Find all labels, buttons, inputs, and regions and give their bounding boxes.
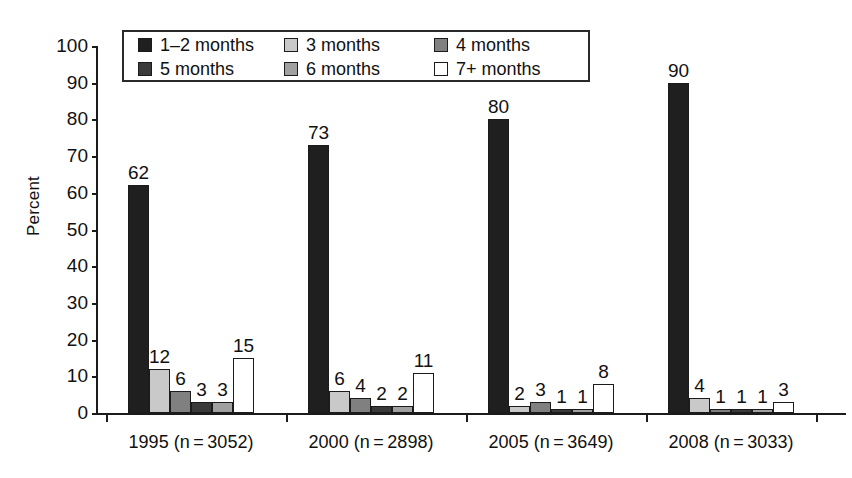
x-tick-mark bbox=[816, 413, 818, 422]
bar-value-label: 73 bbox=[299, 123, 339, 142]
y-tick-label: 10 bbox=[42, 366, 88, 385]
y-tick-label: 80 bbox=[42, 109, 88, 128]
x-tick-label: 1995 (n = 3052) bbox=[91, 432, 291, 453]
legend-item: 4 months bbox=[434, 33, 530, 57]
y-tick-label: 90 bbox=[42, 73, 88, 92]
legend-item: 1–2 months bbox=[138, 33, 254, 57]
legend-item: 6 months bbox=[284, 57, 380, 81]
bar bbox=[191, 402, 212, 413]
y-tick-label: 30 bbox=[42, 293, 88, 312]
bar bbox=[668, 83, 689, 413]
x-tick-label: 2008 (n = 3033) bbox=[631, 432, 831, 453]
bar-group: 621263315 bbox=[128, 46, 254, 413]
bar bbox=[212, 402, 233, 413]
x-axis-line bbox=[96, 413, 846, 415]
x-tick-label: 2000 (n = 2898) bbox=[271, 432, 471, 453]
bar bbox=[128, 185, 149, 413]
legend-row-bottom: 5 months6 months7+ months bbox=[124, 57, 588, 81]
bar-value-label: 80 bbox=[479, 97, 519, 116]
y-tick-mark bbox=[92, 266, 98, 268]
legend-swatch-icon bbox=[284, 62, 298, 76]
bar bbox=[488, 119, 509, 413]
y-tick-mark bbox=[92, 376, 98, 378]
y-tick-mark bbox=[92, 340, 98, 342]
bar-group: 9041113 bbox=[668, 46, 794, 413]
y-tick-label: 20 bbox=[42, 330, 88, 349]
legend-swatch-icon bbox=[434, 38, 448, 52]
bar-value-label: 8 bbox=[584, 362, 624, 381]
bar-value-label: 12 bbox=[140, 347, 180, 366]
y-tick-mark bbox=[92, 413, 98, 415]
y-tick-mark bbox=[92, 230, 98, 232]
x-tick-mark bbox=[466, 413, 468, 422]
legend-item: 5 months bbox=[138, 57, 234, 81]
y-tick-mark bbox=[92, 156, 98, 158]
bar-value-label: 15 bbox=[224, 336, 264, 355]
bar-value-label: 3 bbox=[764, 380, 804, 399]
bar bbox=[392, 406, 413, 413]
legend-label: 1–2 months bbox=[160, 36, 254, 54]
x-tick-mark bbox=[106, 413, 108, 422]
y-tick-label: 40 bbox=[42, 256, 88, 275]
y-axis-ticks: 1009080706050403020100 bbox=[38, 0, 88, 478]
bar bbox=[233, 358, 254, 413]
bar bbox=[752, 409, 773, 413]
bar bbox=[731, 409, 752, 413]
bar bbox=[572, 409, 593, 413]
legend-row-top: 1–2 months3 months4 months bbox=[124, 33, 588, 57]
plot-area: 6212633157364221180231189041113 bbox=[98, 46, 846, 413]
legend-item: 7+ months bbox=[434, 57, 541, 81]
bar-group: 73642211 bbox=[308, 46, 434, 413]
y-tick-label: 60 bbox=[42, 183, 88, 202]
bar-value-label: 62 bbox=[119, 163, 159, 182]
legend: 1–2 months3 months4 months 5 months6 mon… bbox=[122, 30, 590, 82]
y-tick-mark bbox=[92, 303, 98, 305]
bar bbox=[773, 402, 794, 413]
legend-label: 6 months bbox=[306, 60, 380, 78]
bar bbox=[413, 373, 434, 413]
x-tick-mark bbox=[286, 413, 288, 422]
y-tick-mark bbox=[92, 83, 98, 85]
legend-swatch-icon bbox=[138, 62, 152, 76]
legend-label: 5 months bbox=[160, 60, 234, 78]
y-tick-label: 0 bbox=[42, 403, 88, 422]
y-tick-label: 70 bbox=[42, 146, 88, 165]
y-tick-mark bbox=[92, 193, 98, 195]
legend-swatch-icon bbox=[138, 38, 152, 52]
bar bbox=[593, 384, 614, 413]
y-tick-label: 50 bbox=[42, 220, 88, 239]
bar bbox=[551, 409, 572, 413]
legend-label: 3 months bbox=[306, 36, 380, 54]
y-tick-mark bbox=[92, 46, 98, 48]
y-tick-label: 100 bbox=[42, 36, 88, 55]
legend-item: 3 months bbox=[284, 33, 380, 57]
bar-chart: Percent 1009080706050403020100 621263315… bbox=[0, 0, 852, 478]
legend-label: 4 months bbox=[456, 36, 530, 54]
legend-swatch-icon bbox=[434, 62, 448, 76]
bar-value-label: 11 bbox=[404, 351, 444, 370]
bar bbox=[710, 409, 731, 413]
y-tick-mark bbox=[92, 119, 98, 121]
bar bbox=[371, 406, 392, 413]
bar bbox=[509, 406, 530, 413]
x-tick-mark bbox=[646, 413, 648, 422]
bar-group: 8023118 bbox=[488, 46, 614, 413]
legend-swatch-icon bbox=[284, 38, 298, 52]
bar-value-label: 90 bbox=[659, 61, 699, 80]
legend-label: 7+ months bbox=[456, 60, 541, 78]
x-tick-label: 2005 (n = 3649) bbox=[451, 432, 651, 453]
